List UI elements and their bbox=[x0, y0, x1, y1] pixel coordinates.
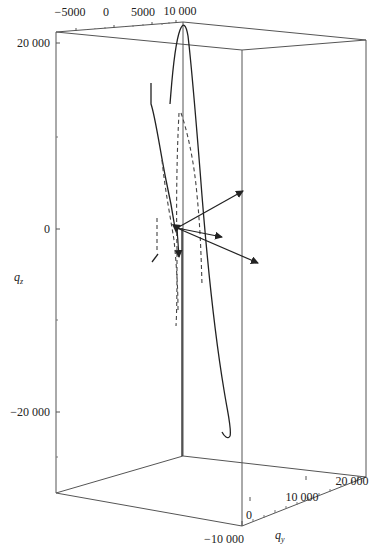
bounding-box bbox=[56, 22, 366, 526]
vectors bbox=[172, 191, 258, 263]
z-axis: 20 000 0 −20 000 qz bbox=[10, 36, 60, 457]
box-bottom-back bbox=[56, 456, 183, 493]
x-tick-label: 0 bbox=[103, 5, 109, 19]
dashed-curve-right bbox=[181, 113, 202, 285]
x-tick-label: 10 000 bbox=[164, 4, 197, 18]
box-top-face bbox=[56, 22, 366, 50]
y-tick-label: 0 bbox=[246, 508, 252, 522]
y-tick-label: −10 000 bbox=[204, 532, 244, 546]
z-tick-label: 0 bbox=[44, 222, 50, 236]
y-tick-label: 10 000 bbox=[286, 490, 319, 504]
solid-curve-left bbox=[151, 83, 175, 228]
z-tick-label: −20 000 bbox=[10, 405, 50, 419]
box-bottom-left bbox=[56, 493, 242, 526]
z-tick-label: 20 000 bbox=[17, 36, 50, 50]
dashed-curve-left bbox=[162, 160, 178, 310]
3d-plot: −5000 0 5000 10 000 20 000 0 −20 000 qz … bbox=[0, 0, 384, 548]
y-tick-label: 20 000 bbox=[336, 474, 369, 488]
z-axis-label: qz bbox=[14, 270, 24, 286]
vector-up-right bbox=[177, 191, 243, 228]
x-tick-label: −5000 bbox=[55, 5, 86, 19]
solid-short-segment bbox=[152, 254, 158, 262]
trajectory-solid bbox=[151, 25, 231, 456]
vector-right bbox=[177, 228, 222, 237]
vector-down-right bbox=[177, 228, 258, 263]
x-tick-label: 5000 bbox=[131, 5, 155, 19]
y-axis-label: qy bbox=[275, 528, 285, 544]
y-axis: −10 000 0 10 000 20 000 qy bbox=[204, 474, 368, 546]
trajectory-dashed bbox=[157, 113, 202, 326]
